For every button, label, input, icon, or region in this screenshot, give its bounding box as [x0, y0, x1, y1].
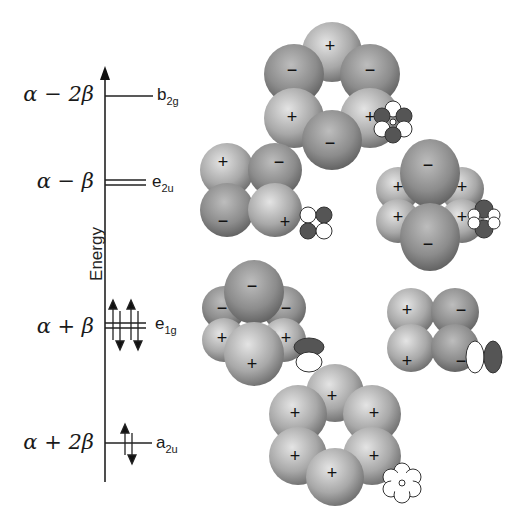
orbital-e1g-a: −−− +++	[202, 260, 306, 386]
orbital-a2u-schematic-icon	[383, 463, 421, 503]
svg-text:+: +	[280, 212, 291, 232]
svg-text:−: −	[365, 60, 376, 80]
svg-text:+: +	[393, 177, 404, 197]
svg-text:+: +	[325, 36, 336, 56]
orbital-a2u: +++ +++	[269, 364, 401, 506]
symmetry-label-b2g: b2g	[157, 85, 179, 107]
orbital-e2u-a: +−−+	[200, 143, 302, 237]
svg-text:−: −	[217, 298, 228, 318]
svg-text:+: +	[327, 386, 338, 406]
electron-pair-icon	[127, 300, 142, 350]
svg-text:+: +	[457, 207, 468, 227]
energy-label-b2g: α − 2β	[2, 82, 94, 106]
energy-axis-label: Energy	[87, 214, 107, 294]
orbital-e2u-a-schematic-icon	[300, 207, 332, 239]
energy-label-a2u: α + 2β	[2, 430, 94, 454]
svg-text:−: −	[218, 211, 229, 231]
svg-text:−: −	[456, 300, 467, 320]
level-e1g	[105, 300, 146, 350]
svg-text:+: +	[247, 354, 258, 374]
electron-pair-icon	[121, 424, 136, 464]
svg-text:+: +	[290, 446, 301, 466]
level-e2u	[105, 180, 146, 185]
orbital-e2u-b: −++ ++−	[376, 139, 484, 271]
svg-text:−: −	[281, 298, 292, 318]
svg-text:−: −	[247, 276, 258, 296]
symmetry-label-e1g: e1g	[155, 314, 177, 336]
level-a2u	[105, 424, 152, 464]
svg-text:+: +	[402, 300, 413, 320]
svg-text:+: +	[217, 328, 228, 348]
svg-text:+: +	[369, 403, 380, 423]
svg-text:+: +	[457, 177, 468, 197]
svg-text:−: −	[423, 234, 434, 254]
energy-label-e1g: α + β	[2, 314, 94, 338]
svg-text:−: −	[325, 133, 336, 153]
symmetry-label-e2u: e2u	[152, 172, 174, 194]
energy-label-e2u: α − β	[2, 169, 94, 193]
svg-text:−: −	[423, 155, 434, 175]
orbital-e1g-b: +−+−	[387, 288, 479, 372]
svg-text:+: +	[290, 403, 301, 423]
svg-text:+: +	[393, 207, 404, 227]
svg-text:−: −	[287, 60, 298, 80]
svg-text:−: −	[274, 152, 285, 172]
svg-text:+: +	[327, 463, 338, 483]
svg-text:+: +	[402, 351, 413, 371]
svg-text:+: +	[369, 446, 380, 466]
symmetry-label-a2u: a2u	[156, 433, 178, 455]
svg-text:+: +	[218, 152, 229, 172]
orbital-e1g-b-schematic-icon	[466, 341, 502, 373]
svg-text:−: −	[456, 351, 467, 371]
axis-arrow-icon	[100, 66, 110, 80]
electron-pair-icon	[109, 300, 124, 350]
svg-text:+: +	[287, 107, 298, 127]
svg-text:+: +	[281, 328, 292, 348]
